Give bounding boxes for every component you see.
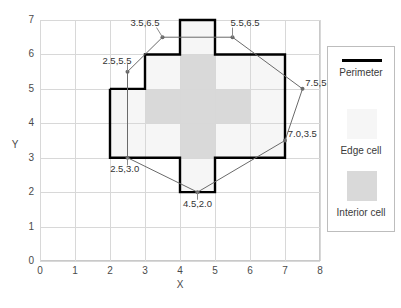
y-tick-label: 1 bbox=[16, 221, 34, 232]
y-tick-label: 5 bbox=[16, 83, 34, 94]
x-axis-title: X bbox=[20, 279, 340, 290]
y-tick-label: 0 bbox=[16, 255, 34, 266]
x-tick-label: 6 bbox=[240, 265, 260, 276]
legend: Perimeter Edge cell Interior cell bbox=[327, 46, 395, 232]
label-leader-line bbox=[157, 28, 163, 38]
legend-label-interior-cell: Interior cell bbox=[328, 207, 394, 218]
legend-label-edge-cell: Edge cell bbox=[328, 145, 394, 156]
point-label: 7.0,3.5 bbox=[288, 128, 317, 139]
point-label: 5.5,6.5 bbox=[231, 17, 260, 28]
y-axis-title: Y bbox=[8, 139, 22, 150]
legend-swatch-edge-cell bbox=[347, 109, 377, 139]
x-tick-label: 2 bbox=[100, 265, 120, 276]
vertex-marker bbox=[301, 87, 305, 91]
chart-container: 01234567801234567 2.5,5.53.5,6.55.5,6.57… bbox=[0, 0, 401, 308]
x-tick-label: 5 bbox=[205, 265, 225, 276]
x-tick-label: 8 bbox=[310, 265, 330, 276]
y-tick-label: 3 bbox=[16, 152, 34, 163]
y-tick-label: 4 bbox=[16, 117, 34, 128]
x-tick-label: 3 bbox=[135, 265, 155, 276]
point-label: 2.5,3.0 bbox=[100, 163, 150, 174]
y-tick-label: 2 bbox=[16, 186, 34, 197]
point-label: 3.5,6.5 bbox=[0, 17, 160, 28]
x-tick-label: 4 bbox=[170, 265, 190, 276]
legend-label-perimeter: Perimeter bbox=[328, 67, 394, 78]
point-label: 2.5,5.5 bbox=[0, 55, 132, 66]
vertex-marker bbox=[283, 139, 287, 143]
x-tick-label: 0 bbox=[30, 265, 50, 276]
legend-swatch-perimeter bbox=[342, 59, 382, 62]
x-tick-label: 1 bbox=[65, 265, 85, 276]
point-label: 4.5,2.0 bbox=[173, 198, 223, 209]
legend-swatch-interior-cell bbox=[347, 171, 377, 201]
x-tick-label: 7 bbox=[275, 265, 295, 276]
